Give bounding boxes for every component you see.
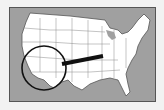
- us-map: [10, 8, 155, 101]
- us-landmass: [22, 13, 150, 96]
- map-frame: [9, 7, 156, 102]
